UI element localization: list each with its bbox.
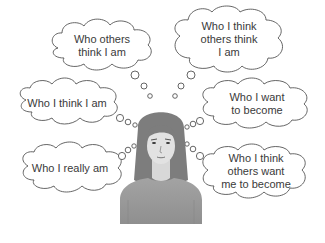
bubble-line: others want <box>221 165 291 178</box>
bubble-text-who-i-think-others-think-i-am: Who I think others think I am <box>201 20 258 59</box>
bubble-line: to become <box>229 104 284 117</box>
bubble-line: Who I think I am <box>27 97 106 110</box>
eye-left <box>152 142 156 144</box>
eye-right <box>166 142 170 144</box>
bubble-line: think I am <box>74 46 130 59</box>
bubble-text-who-i-think-i-am: Who I think I am <box>27 97 106 110</box>
bubble-text-who-others-think-i-am: Who others think I am <box>74 33 130 59</box>
woman-figure <box>120 112 202 224</box>
bubble-line: Who I think <box>201 20 258 33</box>
bubble-text-who-i-think-others-want-me-to-become: Who I think others want me to become <box>221 152 291 191</box>
bubble-line: Who I want <box>229 91 284 104</box>
bubble-line: Who I really am <box>32 162 108 175</box>
bubble-text-who-i-want-to-become: Who I want to become <box>229 91 284 117</box>
bubble-line: Who others <box>74 33 130 46</box>
bubble-line: Who I think <box>221 152 291 165</box>
bubble-line: me to become <box>221 178 291 191</box>
bubble-text-who-i-really-am: Who I really am <box>32 162 108 175</box>
bubble-line: others think <box>201 33 258 46</box>
bubble-line: I am <box>201 46 258 59</box>
diagram-canvas <box>0 0 325 243</box>
sweater <box>120 178 202 224</box>
